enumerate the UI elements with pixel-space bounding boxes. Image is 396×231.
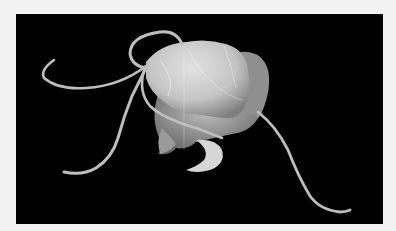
image-frame: [0, 0, 396, 231]
flagellum-left: [43, 60, 146, 88]
micrograph-illustration: [16, 14, 383, 224]
micrograph-panel: [16, 14, 383, 224]
flagellum-trailing: [258, 112, 350, 212]
